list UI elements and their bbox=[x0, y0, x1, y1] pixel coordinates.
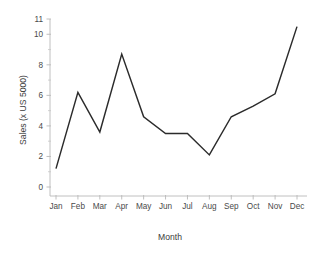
x-tick-label: Jul bbox=[182, 202, 193, 211]
x-tick-label: Mar bbox=[93, 202, 107, 211]
y-axis-title: Sales (x US 5000) bbox=[18, 75, 28, 145]
x-tick-label-group: JanFebMarAprMayJunJulAugSepOctNovDec bbox=[49, 202, 304, 211]
x-tick-label: Jun bbox=[159, 202, 173, 211]
x-tick-label: Dec bbox=[290, 202, 305, 211]
y-tick-label: 6 bbox=[38, 91, 43, 100]
y-tick-label: 4 bbox=[38, 122, 43, 131]
x-tick-label: Nov bbox=[268, 202, 283, 211]
x-tick-label: Sep bbox=[224, 202, 239, 211]
y-tick-label-group: 024681011 bbox=[34, 15, 44, 192]
chart-canvas: 024681011 JanFebMarAprMayJunJulAugSepOct… bbox=[0, 0, 321, 253]
x-tick-label: Aug bbox=[202, 202, 217, 211]
y-tick-label: 11 bbox=[35, 15, 44, 24]
x-tick-label: Oct bbox=[247, 202, 260, 211]
x-tick-label: Apr bbox=[115, 202, 128, 211]
x-tick-label: Feb bbox=[71, 202, 86, 211]
line-chart: 024681011 JanFebMarAprMayJunJulAugSepOct… bbox=[0, 0, 321, 253]
x-tick-label: Jan bbox=[49, 202, 63, 211]
sales-series-line bbox=[56, 27, 297, 169]
x-axis-title: Month bbox=[158, 232, 182, 242]
y-tick-label: 8 bbox=[38, 61, 43, 70]
x-axis: JanFebMarAprMayJunJulAugSepOctNovDec bbox=[49, 195, 307, 211]
y-tick-label: 10 bbox=[34, 30, 44, 39]
y-tick-label: 0 bbox=[38, 183, 43, 192]
x-tick-label: May bbox=[136, 202, 152, 211]
y-tick-label: 2 bbox=[38, 152, 43, 161]
y-axis: 024681011 bbox=[34, 15, 51, 196]
